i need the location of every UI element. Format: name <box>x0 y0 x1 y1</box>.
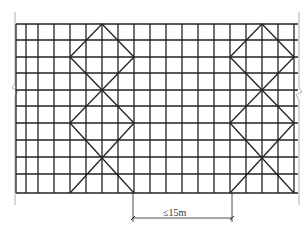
scaffold-grid <box>16 24 298 193</box>
break-lines <box>12 12 302 205</box>
scaffold-diagram <box>0 0 308 239</box>
dimension-label: ≤15m <box>163 207 186 218</box>
